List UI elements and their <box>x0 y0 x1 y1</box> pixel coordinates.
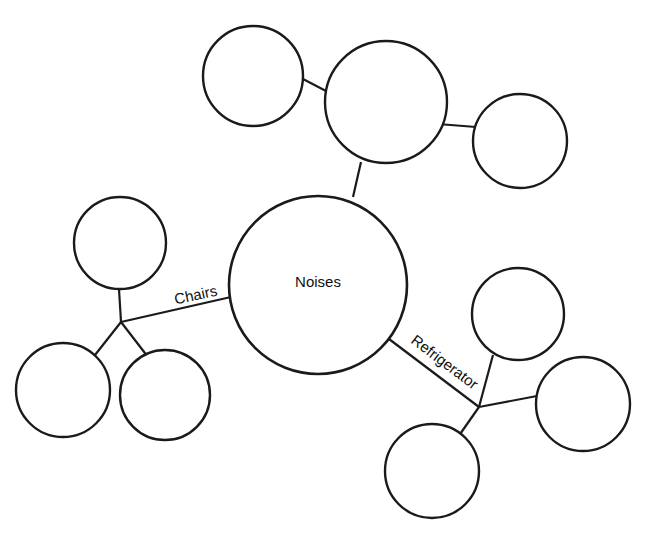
chairs-label: Chairs <box>173 282 219 308</box>
connector-right-junction-to-middle <box>479 396 537 407</box>
node-right-middle-leaf[interactable] <box>536 357 630 451</box>
node-top-right-leaf[interactable] <box>473 94 567 188</box>
node-right-upper-leaf[interactable] <box>472 268 564 360</box>
connector-root-to-hub-top <box>353 162 361 197</box>
connector-left-junction-to-lower <box>95 322 121 355</box>
nodes-group: Noises <box>16 26 630 518</box>
node-left-lower-leaf[interactable] <box>16 343 110 437</box>
node-hub-top[interactable] <box>325 41 447 163</box>
connector-hub-top-to-top-left <box>303 79 326 91</box>
connector-left-junction-to-bottom <box>121 322 148 357</box>
connector-right-junction-to-lower <box>458 407 479 437</box>
mindmap-diagram: Noises ChairsRefrigerator <box>0 0 651 539</box>
mindmap-canvas: Noises ChairsRefrigerator <box>0 0 651 539</box>
node-left-upper-leaf[interactable] <box>74 197 166 289</box>
node-top-left-leaf[interactable] <box>203 26 303 126</box>
node-left-bottom-leaf[interactable] <box>120 350 210 440</box>
connector-left-junction-to-upper <box>119 289 121 322</box>
connector-right-junction-to-upper <box>479 355 493 407</box>
node-right-lower-leaf[interactable] <box>385 424 479 518</box>
root-node-noises-label: Noises <box>295 273 341 290</box>
